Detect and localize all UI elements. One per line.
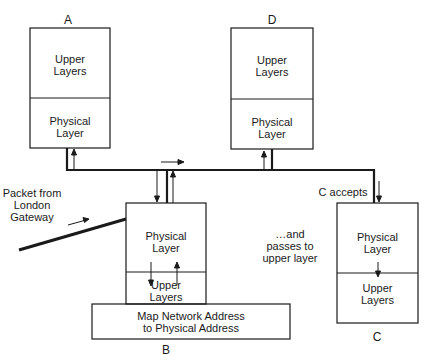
map-address-text: Map Network Address to Physical Address	[92, 310, 290, 334]
node-c-upper-layers: Upper Layers	[337, 282, 418, 306]
passes-to-upper-label: …and passes to upper layer	[258, 228, 322, 264]
node-d-upper-layers: Upper Layers	[231, 54, 313, 78]
node-d-physical-layer: Physical Layer	[231, 116, 313, 140]
node-a-label: A	[60, 14, 76, 26]
c-accepts-label: C accepts	[316, 186, 370, 198]
node-c-physical-layer: Physical Layer	[337, 231, 418, 255]
node-a-upper-layers: Upper Layers	[30, 53, 110, 77]
node-b-label: B	[158, 344, 174, 356]
packet-from-london-label: Packet from London Gateway	[2, 187, 62, 223]
node-b-upper-layers: Upper Layers	[126, 279, 206, 303]
node-c-label: C	[369, 331, 385, 343]
node-a-physical-layer: Physical Layer	[30, 115, 110, 139]
node-b-physical-layer: Physical Layer	[126, 230, 206, 254]
node-d-label: D	[264, 14, 280, 26]
